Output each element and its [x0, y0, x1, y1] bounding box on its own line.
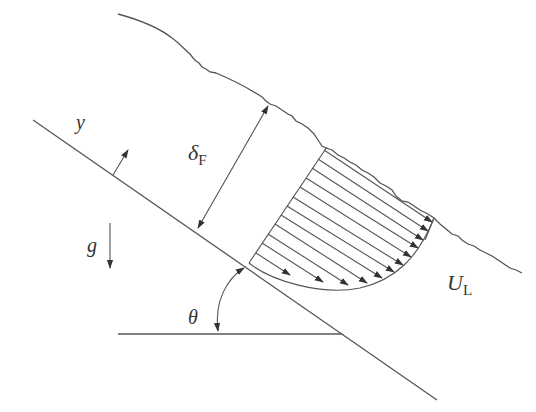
film-thickness-arrow — [198, 106, 268, 228]
falling-film-diagram: y δF g θ UL — [0, 0, 536, 412]
profile-arrows — [256, 150, 432, 285]
film-thickness-label: δF — [188, 140, 207, 168]
y-axis-arrow — [113, 150, 128, 175]
velocity-profile — [249, 147, 434, 290]
angle-label: θ — [188, 306, 198, 328]
profile-arrow — [268, 234, 348, 285]
inclined-wall — [33, 120, 437, 400]
free-surface — [118, 14, 522, 273]
gravity-label: g — [87, 234, 97, 257]
y-axis-label: y — [74, 111, 85, 134]
angle-arc — [217, 268, 244, 331]
profile-arrow — [293, 197, 403, 265]
profile-arrow — [287, 206, 394, 272]
profile-baseline — [249, 147, 327, 263]
velocity-label: UL — [447, 270, 472, 298]
profile-arrow — [281, 215, 382, 278]
